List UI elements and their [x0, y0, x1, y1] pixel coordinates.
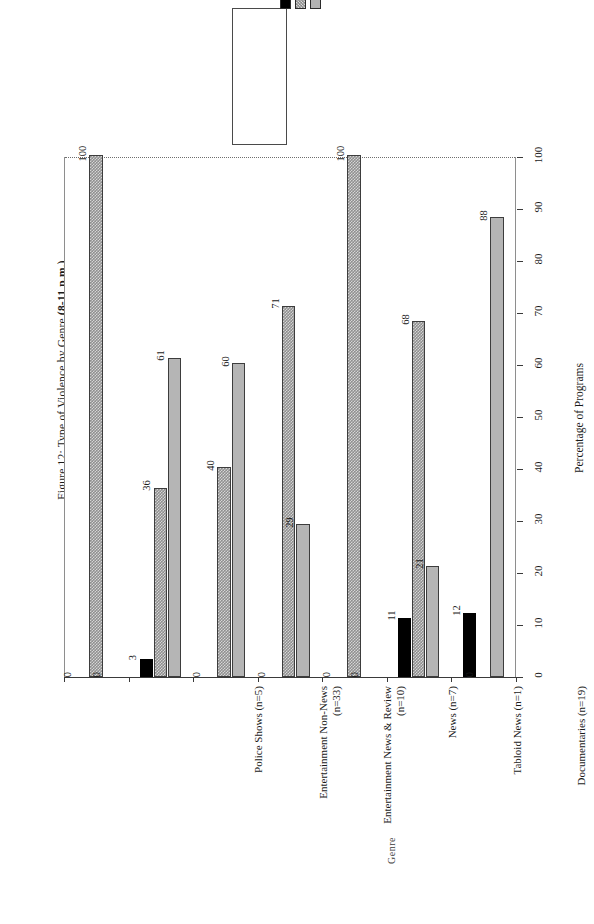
bar-value-label: 68 [408, 314, 419, 325]
bar: 68 [412, 321, 425, 677]
bar-value-label: 0 [100, 671, 111, 676]
bar-value-label: 0 [329, 671, 340, 676]
bar-value-label: 100 [85, 145, 96, 161]
legend-item-0: Talk About Violence [278, 0, 293, 9]
bar-value-label: 21 [422, 559, 433, 570]
bar: 61 [168, 358, 181, 677]
x-tick-mark [129, 677, 130, 682]
y-tick-mark-0 [517, 677, 523, 678]
bar: 71 [282, 306, 296, 677]
bar-value-label: 12 [459, 605, 470, 616]
bar: 29 [296, 524, 310, 677]
y-axis-title: Percentage of Programs [573, 328, 585, 508]
y-tick-label-0: 0 [532, 661, 544, 689]
y-tick-label-90: 90 [532, 193, 544, 221]
bar-value-label: 0 [358, 671, 369, 676]
bar-value-label: 40 [213, 460, 224, 471]
y-tick-mark-80 [517, 261, 523, 262]
bar-group: 116821 [398, 157, 440, 677]
y-tick-mark-40 [517, 469, 523, 470]
bar-value-label: 61 [164, 351, 175, 362]
x-category-label: Police Shows (n=5) [252, 686, 265, 836]
bar: 60 [232, 363, 246, 677]
bar-value-label: 88 [486, 210, 497, 221]
bar: 11 [398, 618, 411, 677]
y-tick-label-50: 50 [532, 401, 544, 429]
y-tick-label-100: 100 [532, 141, 544, 169]
legend-item-2: No Violence [308, 0, 323, 9]
x-tick-mark [64, 677, 65, 682]
bar-value-label: 11 [394, 611, 405, 621]
y-tick-label-20: 20 [532, 557, 544, 585]
bar-group: 01000 [75, 157, 117, 677]
y-tick-label-40: 40 [532, 453, 544, 481]
bar-value-label: 100 [344, 145, 355, 161]
bar-value-label: 3 [136, 655, 147, 660]
bar-value-label: 0 [200, 671, 211, 676]
bar: 88 [490, 217, 504, 677]
y-tick-label-80: 80 [532, 245, 544, 273]
x-tick-mark [258, 677, 259, 682]
y-tick-mark-60 [517, 365, 523, 366]
y-tick-label-60: 60 [532, 349, 544, 377]
bar-value-label: 0 [473, 671, 484, 676]
x-tick-mark [451, 677, 452, 682]
bar-group: 12088 [463, 157, 505, 677]
bar: 36 [154, 488, 167, 677]
bar-group: 01000 [334, 157, 376, 677]
y-tick-mark-70 [517, 313, 523, 314]
y-tick-mark-30 [517, 521, 523, 522]
x-category-label: Documentaries (n=19) [575, 686, 588, 836]
x-tick-mark [516, 677, 517, 682]
bar-group: 33661 [140, 157, 182, 677]
bar-group: 04060 [204, 157, 246, 677]
bar-value-label: 36 [150, 481, 161, 492]
chart-legend: Talk About ViolenceVisual ViolenceNo Vio… [232, 8, 287, 145]
x-category-label: Tabloid News (n=1) [511, 686, 524, 836]
x-category-label: Entertainment News & Review (n=10) [381, 686, 407, 836]
bar-value-label: 29 [293, 517, 304, 528]
legend-swatch-icon [310, 0, 321, 9]
legend-swatch-icon [295, 0, 306, 9]
bar-value-label: 71 [278, 299, 289, 310]
y-tick-mark-90 [517, 209, 523, 210]
legend-items: Talk About ViolenceVisual ViolenceNo Vio… [278, 0, 323, 9]
y-tick-label-70: 70 [532, 297, 544, 325]
bar-value-label: 60 [228, 356, 239, 367]
x-tick-mark [193, 677, 194, 682]
legend-item-1: Visual Violence [293, 0, 308, 9]
bar-group: 07129 [269, 157, 311, 677]
legend-swatch-icon [280, 0, 291, 9]
bar: 100 [89, 155, 103, 677]
y-tick-mark-20 [517, 573, 523, 574]
x-tick-mark [387, 677, 388, 682]
x-tick-mark [322, 677, 323, 682]
y-tick-mark-100 [517, 157, 523, 158]
bar: 12 [463, 613, 477, 677]
bar-value-label: 0 [71, 671, 82, 676]
x-axis-line [64, 677, 517, 678]
bar: 3 [140, 659, 153, 677]
bar-series-container: 010003366104060071290100011682112088 [64, 157, 516, 677]
x-category-label: Entertainment Non-News (n=33) [317, 686, 343, 836]
bar-value-label: 0 [264, 671, 275, 676]
bar: 40 [217, 467, 231, 677]
y-tick-label-30: 30 [532, 505, 544, 533]
x-category-label: News (n=7) [446, 686, 459, 836]
y-tick-mark-50 [517, 417, 523, 418]
y-tick-label-10: 10 [532, 609, 544, 637]
y-tick-mark-10 [517, 625, 523, 626]
bar: 21 [426, 566, 439, 677]
bar: 100 [347, 155, 361, 677]
